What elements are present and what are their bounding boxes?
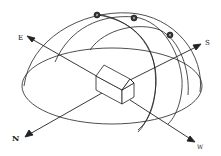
north-axis [28,93,102,135]
sun-path-arc-1 [55,17,182,124]
west-label: W [197,143,204,150]
west-axis [130,100,192,140]
south-arrowhead [193,44,201,50]
east-axis [30,38,100,78]
west-arrowhead [187,136,195,142]
sun-path-diagram: E S N W [0,0,221,156]
sun-icon [131,15,137,21]
sun-icon [167,32,173,38]
south-label: S [205,39,210,47]
south-axis [130,46,198,80]
north-label: N [12,133,19,143]
east-arrowhead [27,36,35,42]
house-icon [96,65,134,104]
sun-icon [94,12,100,18]
north-arrowhead [25,130,33,137]
east-label: E [18,34,23,42]
